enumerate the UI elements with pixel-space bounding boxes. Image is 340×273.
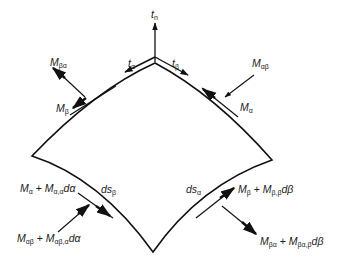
m-alpha-beta-label: Mαβ — [252, 57, 269, 71]
tn-label: tn — [151, 8, 158, 21]
ds-beta-label: dsβ — [101, 183, 116, 197]
m-alpha-label: Mα — [240, 101, 253, 114]
m-beta-label: Mβ — [56, 102, 69, 116]
m-alpha-plus-label: Mα + Mα,αdα — [20, 182, 76, 195]
ds-alpha-label: dsα — [186, 183, 201, 196]
m-beta-alpha-label: Mβα — [50, 56, 67, 70]
m-alpha-beta-plus-label: Mαβ + Mαβ,αdα — [17, 232, 81, 246]
m-beta-plus-label: Mβ + Mβ,βdβ — [238, 183, 293, 197]
ta-label: tα — [128, 57, 135, 70]
m-beta-alpha-plus-label: Mβα + Mβα,βdβ — [260, 235, 323, 249]
tb-label: tβ — [172, 57, 179, 71]
shell-element-diagram: tn tα tβ Mβα Mβ Mαβ Mα dsβ dsα Mα + Mα,α… — [0, 0, 340, 273]
